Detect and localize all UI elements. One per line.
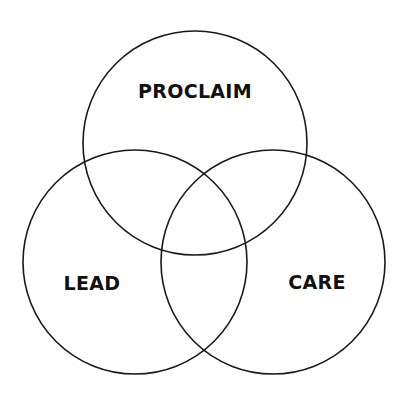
circle-proclaim (83, 31, 307, 255)
circle-care (161, 150, 385, 374)
label-lead: LEAD (64, 272, 121, 294)
venn-diagram: PROCLAIM LEAD CARE (0, 0, 405, 400)
label-care: CARE (288, 271, 345, 293)
venn-svg: PROCLAIM LEAD CARE (0, 0, 405, 400)
label-proclaim: PROCLAIM (138, 80, 252, 102)
circle-lead (23, 150, 247, 374)
